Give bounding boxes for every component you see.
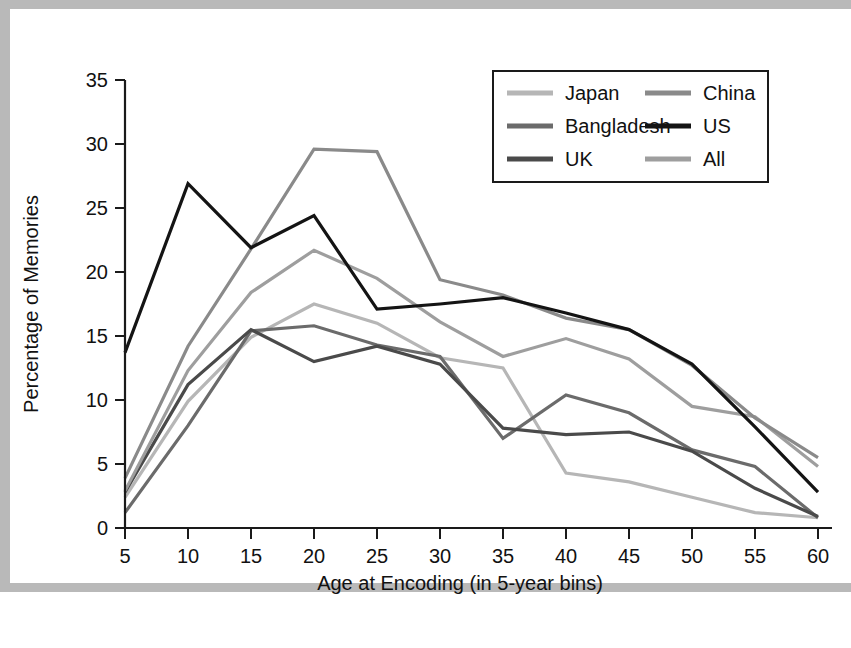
series-line-bangladesh — [125, 326, 818, 518]
x-tick-label: 30 — [429, 545, 451, 567]
x-tick-labels: 51015202530354045505560 — [119, 545, 829, 567]
y-tick-label: 10 — [86, 389, 108, 411]
y-tick-label: 20 — [86, 261, 108, 283]
y-axis-title: Percentage of Memories — [20, 195, 42, 413]
x-tick-label: 5 — [119, 545, 130, 567]
x-tick-label: 25 — [366, 545, 388, 567]
x-tick-label: 20 — [303, 545, 325, 567]
legend-label-japan: Japan — [565, 82, 620, 104]
y-tick-label: 0 — [97, 517, 108, 539]
series-group — [125, 149, 818, 518]
y-tick-label: 5 — [97, 453, 108, 475]
series-line-china — [125, 149, 818, 478]
chart-legend: JapanChinaBangladeshUSUKAll — [493, 71, 768, 182]
y-tick-label: 35 — [86, 69, 108, 91]
x-tick-label: 10 — [177, 545, 199, 567]
legend-label-all: All — [703, 148, 725, 170]
x-tick-label: 15 — [240, 545, 262, 567]
y-tick-label: 30 — [86, 133, 108, 155]
x-tick-label: 50 — [681, 545, 703, 567]
x-axis-title: Age at Encoding (in 5-year bins) — [317, 572, 603, 594]
chart-page: 05101520253035 51015202530354045505560 P… — [0, 0, 851, 648]
y-tick-labels: 05101520253035 — [86, 69, 108, 539]
y-tick-label: 15 — [86, 325, 108, 347]
x-tick-label: 40 — [555, 545, 577, 567]
legend-label-us: US — [703, 115, 731, 137]
y-tick-label: 25 — [86, 197, 108, 219]
x-tick-label: 35 — [492, 545, 514, 567]
x-tick-label: 45 — [618, 545, 640, 567]
x-tick-label: 60 — [807, 545, 829, 567]
legend-label-china: China — [703, 82, 756, 104]
x-tick-label: 55 — [744, 545, 766, 567]
legend-label-uk: UK — [565, 148, 593, 170]
line-chart: 05101520253035 51015202530354045505560 P… — [0, 0, 851, 648]
